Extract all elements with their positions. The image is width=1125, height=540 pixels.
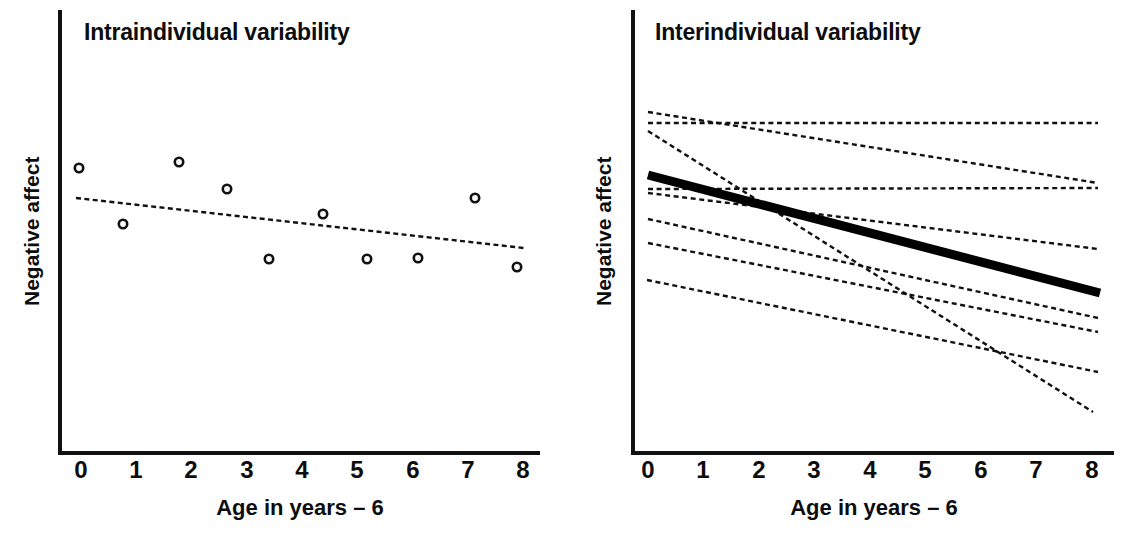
data-point (175, 158, 183, 166)
data-point (265, 255, 273, 263)
panel-title-interindividual: Interindividual variability (655, 19, 921, 46)
data-point-group (75, 158, 521, 271)
data-point (471, 194, 479, 202)
data-point (223, 185, 231, 193)
data-point (319, 210, 327, 218)
x-tick-label: 7 (461, 456, 474, 484)
x-tick-labels-intraindividual: 0 1 2 3 4 5 6 7 8 (58, 456, 542, 486)
x-tick-label: 6 (974, 456, 987, 484)
x-tick-label: 6 (406, 456, 419, 484)
x-tick-label: 8 (1085, 456, 1098, 484)
x-tick-label: 5 (350, 456, 363, 484)
data-point (414, 254, 422, 262)
y-axis-label-intraindividual: Negative affect (20, 157, 44, 306)
x-tick-label: 1 (696, 456, 709, 484)
figure-root: Intraindividual variability Negative aff… (0, 0, 1125, 540)
x-tick-label: 4 (295, 456, 308, 484)
x-tick-label: 2 (752, 456, 765, 484)
x-tick-label: 8 (516, 456, 529, 484)
x-tick-label: 5 (918, 456, 931, 484)
panel-interindividual: Interindividual variability Negative aff… (560, 0, 1125, 540)
x-tick-label: 2 (184, 456, 197, 484)
x-tick-label: 1 (129, 456, 142, 484)
panel-intraindividual: Intraindividual variability Negative aff… (0, 0, 565, 540)
y-axis-label-interindividual: Negative affect (592, 157, 616, 306)
x-tick-label: 0 (74, 456, 87, 484)
x-tick-label: 3 (240, 456, 253, 484)
trend-line-dashed (76, 198, 524, 248)
data-point (119, 220, 127, 228)
data-point (513, 263, 521, 271)
x-tick-label: 0 (641, 456, 654, 484)
x-axis-label-intraindividual: Age in years – 6 (58, 495, 542, 521)
panel-title-intraindividual: Intraindividual variability (84, 19, 350, 46)
x-tick-label: 7 (1029, 456, 1042, 484)
x-axis-label-interindividual: Age in years – 6 (633, 495, 1115, 521)
x-tick-label: 4 (863, 456, 876, 484)
data-point (75, 164, 83, 172)
individual-slope-group (647, 112, 1098, 412)
individual-slope-line (648, 243, 1098, 332)
x-tick-labels-interindividual: 0 1 2 3 4 5 6 7 8 (633, 456, 1115, 486)
x-tick-label: 3 (807, 456, 820, 484)
individual-slope-line (648, 193, 1098, 249)
individual-slope-line (647, 280, 1098, 372)
data-point (363, 255, 371, 263)
